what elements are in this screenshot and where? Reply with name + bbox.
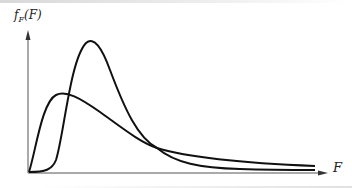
curve-broad [29, 94, 315, 172]
y-axis-label: fF(F) [14, 8, 42, 24]
chart-plot [0, 0, 352, 188]
x-axis-label: F [333, 160, 342, 175]
y-axis-arrow-icon [26, 30, 31, 40]
y-axis-label-argument: (F) [24, 8, 42, 22]
x-axis-arrow-icon [318, 171, 328, 176]
